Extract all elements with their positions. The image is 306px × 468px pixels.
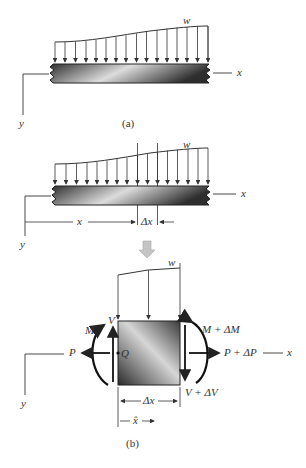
centroid-label-xhat: x̂ [132,414,138,426]
beam-free-body-diagram: w x y (a) [0,0,306,468]
beam [50,64,210,83]
distributed-load-curve [55,26,208,42]
right-shear-label: V + ΔV [185,386,219,398]
caption-b: (b) [126,437,139,450]
left-moment-arrow [92,325,108,385]
y-axis-label: y [20,397,26,409]
segment-label-dx: Δx [140,215,152,227]
left-shear-label: V [108,314,116,326]
left-moment-label: M [84,324,95,336]
y-axis [23,74,49,115]
load-label-w: w [183,138,191,150]
x-axis-label: x [286,346,292,358]
width-label-dx: Δx [142,394,154,406]
load-label-w: w [168,256,176,268]
caption-a: (a) [122,117,135,130]
right-axial-label: P + ΔP [223,346,257,358]
panel-b-beam: w x y x Δx [19,138,246,258]
beam [52,186,210,205]
x-axis-label: x [240,187,246,199]
load-label-w: w [183,14,191,26]
y-axis [25,354,64,395]
right-moment-label: M + ΔM [201,323,241,335]
transition-arrow-icon [139,241,155,258]
element-load-curve [118,268,180,275]
left-axial-label: P [68,346,76,358]
distributed-load-curve [55,148,208,164]
element-load-arrows [118,268,180,319]
point-q-label: Q [121,347,129,359]
x-axis-label: x [236,66,242,78]
panel-b-element: w M V P Q y M + ΔM V + ΔV P + ΔP x Δx x̂ [20,256,292,450]
y-axis-label: y [19,238,25,250]
load-arrows [55,148,208,184]
load-arrows [55,26,208,62]
panel-a: w x y (a) [18,14,242,130]
point-q [116,351,119,354]
y-axis-label: y [18,117,24,129]
position-label-x: x [76,215,82,227]
y-axis [25,196,51,236]
